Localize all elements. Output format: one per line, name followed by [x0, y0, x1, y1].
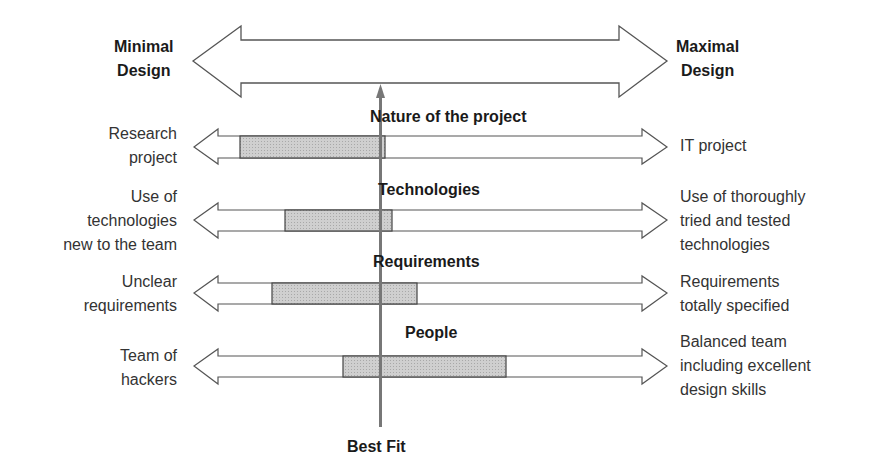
- main-double-arrow-icon: [193, 26, 667, 97]
- factor-4-left-label: Team of hackers: [120, 344, 177, 392]
- factor-arrow-4: [194, 349, 667, 384]
- range-bar: [240, 136, 385, 158]
- factor-4-right-label: Balanced team including excellent design…: [680, 330, 811, 402]
- factor-title-people: People: [405, 321, 457, 345]
- best-fit-label: Best Fit: [347, 435, 406, 459]
- factor-arrow-2: [194, 203, 667, 238]
- factor-arrow-3: [194, 276, 667, 311]
- factor-3-left-label: Unclear requirements: [84, 270, 177, 318]
- factor-title-nature: Nature of the project: [370, 105, 526, 129]
- minimal-design-label: Minimal Design: [114, 35, 174, 83]
- maximal-design-label: Maximal Design: [676, 35, 739, 83]
- range-bar: [272, 283, 417, 304]
- factor-1-left-label: Research project: [109, 122, 177, 170]
- design-spectrum-diagram: Minimal Design Maximal Design Nature of …: [0, 0, 876, 471]
- range-bar: [343, 356, 506, 377]
- range-bar: [285, 210, 392, 231]
- factor-2-right-label: Use of thoroughly tried and tested techn…: [680, 185, 805, 257]
- factor-3-right-label: Requirements totally specified: [680, 270, 789, 318]
- factor-title-technologies: Technologies: [378, 178, 480, 202]
- factor-2-left-label: Use of technologies new to the team: [63, 185, 177, 257]
- factor-1-right-label: IT project: [680, 134, 746, 158]
- factor-title-requirements: Requirements: [373, 250, 480, 274]
- factor-arrow-1: [194, 129, 667, 164]
